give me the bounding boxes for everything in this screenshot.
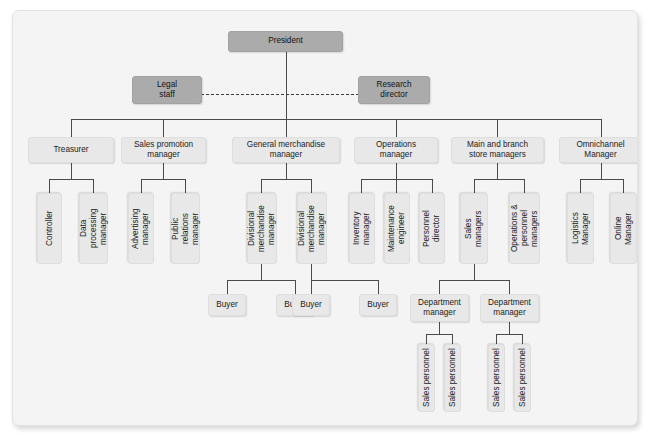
node-buyer-4[interactable]: Buyer bbox=[359, 294, 397, 316]
connector-operations-stem bbox=[396, 163, 397, 179]
connector-div2-buyer3 bbox=[311, 280, 312, 294]
connector-div2-buyer4 bbox=[378, 280, 379, 294]
connector-genmerch-child1 bbox=[261, 179, 262, 193]
node-public-relations-manager[interactable]: Public relations manager bbox=[171, 193, 200, 264]
node-buyer-3-label: Buyer bbox=[300, 300, 321, 310]
node-treasurer-label: Treasurer bbox=[53, 145, 88, 155]
connector-dept1-sp2 bbox=[452, 334, 453, 344]
node-omnichannel-manager[interactable]: Omnichannel Manager bbox=[559, 137, 638, 163]
node-advertising-manager[interactable]: Advertising manager bbox=[128, 193, 154, 264]
node-divisional-merchandise-manager-2-label: Divisional merchandise manager bbox=[297, 205, 327, 252]
connector-operations-child3 bbox=[432, 179, 433, 193]
node-maintenance-engineer-label: Maintenance engineer bbox=[387, 205, 407, 252]
org-chart-page: President Legal staff Research director … bbox=[0, 0, 660, 446]
node-sales-personnel-4[interactable]: Sales personnel bbox=[514, 344, 531, 412]
node-treasurer[interactable]: Treasurer bbox=[28, 137, 114, 163]
connector-operations-child1 bbox=[361, 179, 362, 193]
connector-dept2-sp3 bbox=[496, 334, 497, 344]
connector-drop-operations bbox=[396, 119, 397, 137]
connector-treasurer-child2 bbox=[93, 179, 94, 193]
node-sales-personnel-3[interactable]: Sales personnel bbox=[488, 344, 505, 412]
connector-salespromo-stem bbox=[163, 163, 164, 179]
connector-staff-dashed bbox=[201, 94, 359, 95]
connector-div2-bar bbox=[311, 280, 379, 281]
node-department-manager-1-label: Department manager bbox=[418, 298, 461, 319]
connector-dept1-stem bbox=[439, 322, 440, 334]
node-operations-manager-label: Operations manager bbox=[376, 140, 416, 161]
node-legal-staff[interactable]: Legal staff bbox=[132, 76, 202, 104]
connector-bus-top bbox=[71, 119, 601, 120]
node-controller[interactable]: Controller bbox=[37, 193, 62, 264]
node-sales-personnel-2-label: Sales personnel bbox=[448, 349, 458, 408]
node-personnel-director[interactable]: Personnel director bbox=[419, 193, 445, 264]
chart-canvas: President Legal staff Research director … bbox=[13, 11, 637, 425]
connector-store-child2 bbox=[524, 179, 525, 193]
connector-genmerch-bar bbox=[261, 179, 312, 180]
connector-president-down bbox=[286, 51, 287, 119]
node-sales-promotion-manager-label: Sales promotion manager bbox=[134, 140, 193, 161]
node-sales-personnel-2[interactable]: Sales personnel bbox=[444, 344, 461, 412]
node-maintenance-engineer[interactable]: Maintenance engineer bbox=[384, 193, 410, 264]
connector-salesmgr-bar bbox=[439, 280, 510, 281]
node-president[interactable]: President bbox=[228, 31, 343, 52]
connector-div1-bar bbox=[227, 280, 296, 281]
connector-treasurer-bar bbox=[49, 179, 94, 180]
connector-operations-bar bbox=[361, 179, 433, 180]
connector-treasurer-child1 bbox=[49, 179, 50, 193]
connector-dept2-sp4 bbox=[522, 334, 523, 344]
connector-store-bar bbox=[474, 179, 525, 180]
node-department-manager-1[interactable]: Department manager bbox=[410, 294, 469, 322]
node-data-processing-manager[interactable]: Data processing manager bbox=[79, 193, 108, 264]
node-sales-personnel-1[interactable]: Sales personnel bbox=[418, 344, 435, 412]
node-main-and-branch-store-managers[interactable]: Main and branch store managers bbox=[451, 137, 544, 163]
connector-drop-store-managers bbox=[497, 119, 498, 137]
node-general-merchandise-manager[interactable]: General merchandise manager bbox=[232, 137, 340, 163]
node-buyer-1-label: Buyer bbox=[216, 300, 237, 310]
node-department-manager-2[interactable]: Department manager bbox=[480, 294, 539, 322]
connector-drop-treasurer bbox=[71, 119, 72, 137]
node-operations-manager[interactable]: Operations manager bbox=[354, 137, 438, 163]
node-sales-managers-label: Sales managers bbox=[464, 210, 484, 246]
connector-div1-buyer1 bbox=[227, 280, 228, 294]
connector-store-stem bbox=[497, 163, 498, 179]
node-buyer-1[interactable]: Buyer bbox=[208, 294, 246, 316]
node-operations-personnel-managers[interactable]: Operations & personnel managers bbox=[509, 193, 540, 264]
node-omnichannel-manager-label: Omnichannel Manager bbox=[576, 140, 624, 161]
node-president-label: President bbox=[268, 36, 303, 46]
chart-panel: President Legal staff Research director … bbox=[12, 10, 638, 426]
node-sales-promotion-manager[interactable]: Sales promotion manager bbox=[121, 137, 206, 163]
node-personnel-director-label: Personnel director bbox=[422, 210, 442, 247]
node-main-and-branch-store-managers-label: Main and branch store managers bbox=[467, 140, 528, 161]
node-online-manager[interactable]: Online Manager bbox=[610, 193, 637, 264]
connector-div2-stem bbox=[311, 264, 312, 280]
node-sales-personnel-4-label: Sales personnel bbox=[518, 349, 528, 408]
node-buyer-4-label: Buyer bbox=[367, 300, 388, 310]
connector-omni-child2 bbox=[623, 179, 624, 193]
node-research-director[interactable]: Research director bbox=[358, 76, 430, 104]
connector-salespromo-bar bbox=[141, 179, 186, 180]
node-sales-personnel-3-label: Sales personnel bbox=[492, 349, 502, 408]
connector-omni-stem bbox=[601, 163, 602, 179]
connector-div1-stem bbox=[261, 264, 262, 280]
connector-salesmgr-dept1 bbox=[439, 280, 440, 294]
connector-genmerch-child2 bbox=[311, 179, 312, 193]
connector-dept1-sp1 bbox=[426, 334, 427, 344]
node-sales-managers[interactable]: Sales managers bbox=[460, 193, 488, 264]
node-sales-personnel-1-label: Sales personnel bbox=[422, 349, 432, 408]
connector-operations-child2 bbox=[396, 179, 397, 193]
node-online-manager-label: Online Manager bbox=[614, 212, 634, 244]
connector-salespromo-child1 bbox=[141, 179, 142, 193]
connector-omni-bar bbox=[580, 179, 624, 180]
node-inventory-manager[interactable]: Inventory manager bbox=[349, 193, 375, 264]
connector-store-child1 bbox=[474, 179, 475, 193]
node-logistics-manager[interactable]: Logistics Manager bbox=[567, 193, 594, 264]
connector-genmerch-stem bbox=[286, 163, 287, 179]
node-divisional-merchandise-manager-2[interactable]: Divisional merchandise manager bbox=[297, 193, 327, 264]
node-buyer-3[interactable]: Buyer bbox=[292, 294, 330, 316]
node-divisional-merchandise-manager-1[interactable]: Divisional merchandise manager bbox=[247, 193, 277, 264]
connector-treasurer-stem bbox=[71, 163, 72, 179]
connector-drop-general-merchandise bbox=[286, 119, 287, 137]
node-advertising-manager-label: Advertising manager bbox=[131, 208, 151, 249]
node-inventory-manager-label: Inventory manager bbox=[352, 212, 372, 246]
node-department-manager-2-label: Department manager bbox=[488, 298, 531, 319]
